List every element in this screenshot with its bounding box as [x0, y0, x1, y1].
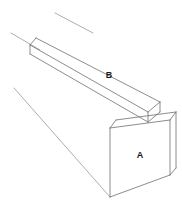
- slab-top-face-fill: [30, 38, 160, 112]
- slab-front-face-fill: [30, 45, 148, 122]
- isometric-line-drawing: B A: [0, 0, 182, 211]
- construction-line-upper: [55, 13, 93, 33]
- box-right-face-fill: [170, 112, 176, 175]
- label-b: B: [106, 70, 113, 80]
- figure-canvas: B A: [0, 0, 182, 211]
- construction-lines: [11, 13, 110, 197]
- slab-top-near-edge: [30, 45, 148, 112]
- label-a: A: [137, 150, 144, 160]
- solid-fills: [30, 38, 176, 197]
- construction-line-lower: [14, 88, 110, 197]
